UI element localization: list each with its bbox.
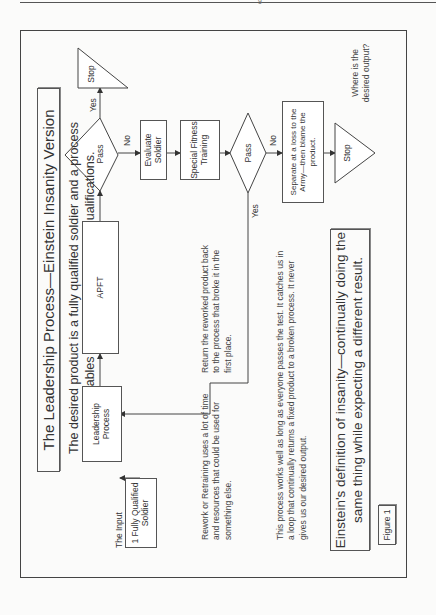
node-input: 1 Fully Qualified Soldier — [125, 478, 157, 548]
figure-label: Figure 1 — [378, 505, 396, 545]
einstein-line-2: same thing while expecting a different r… — [350, 232, 367, 548]
node-apft: APFT — [82, 221, 119, 354]
page-header-rule — [20, 2, 436, 3]
einstein-line-1: Einstein's definition of insanity—contin… — [333, 232, 350, 548]
pass1-label: Pass — [95, 135, 105, 173]
input-label: The Input — [114, 512, 124, 548]
note-rework: Rework or Retraining uses a lot of time … — [200, 390, 234, 540]
node-special-fitness-training: Special Fitness Training — [180, 120, 220, 180]
pass1-no-label: No — [122, 135, 132, 146]
diagram-title: The Leadership Process—Einstein Insanity… — [37, 88, 60, 472]
stop1-label: Stop — [86, 62, 96, 86]
stop2-triangle — [335, 123, 375, 183]
pass1-yes-label: Yes — [88, 98, 98, 112]
page-header-mark: g — [258, 0, 262, 3]
note-loop: This process works well as long as every… — [275, 250, 309, 540]
note-return: Return the reworked product back to the … — [200, 243, 234, 373]
subtitle-line-1: The desired product is a fully qualified… — [66, 58, 82, 518]
pass2-label: Pass — [243, 133, 253, 173]
node-leadership-process: Leadership Process — [82, 386, 122, 462]
node-evaluate-soldier: Evaluate Soldier — [140, 120, 167, 180]
pass2-yes-label: Yes — [250, 204, 260, 218]
diagram-canvas: The Leadership Process—Einstein Insanity… — [20, 30, 407, 578]
stop2-label: Stop — [342, 138, 352, 168]
node-separate: Separate at a loss to the Army—then blam… — [282, 101, 324, 203]
einstein-quote: Einstein's definition of insanity—contin… — [330, 229, 370, 551]
note-desired-output: Where is the desired output? — [350, 38, 373, 108]
pass2-no-label: No — [268, 135, 278, 146]
